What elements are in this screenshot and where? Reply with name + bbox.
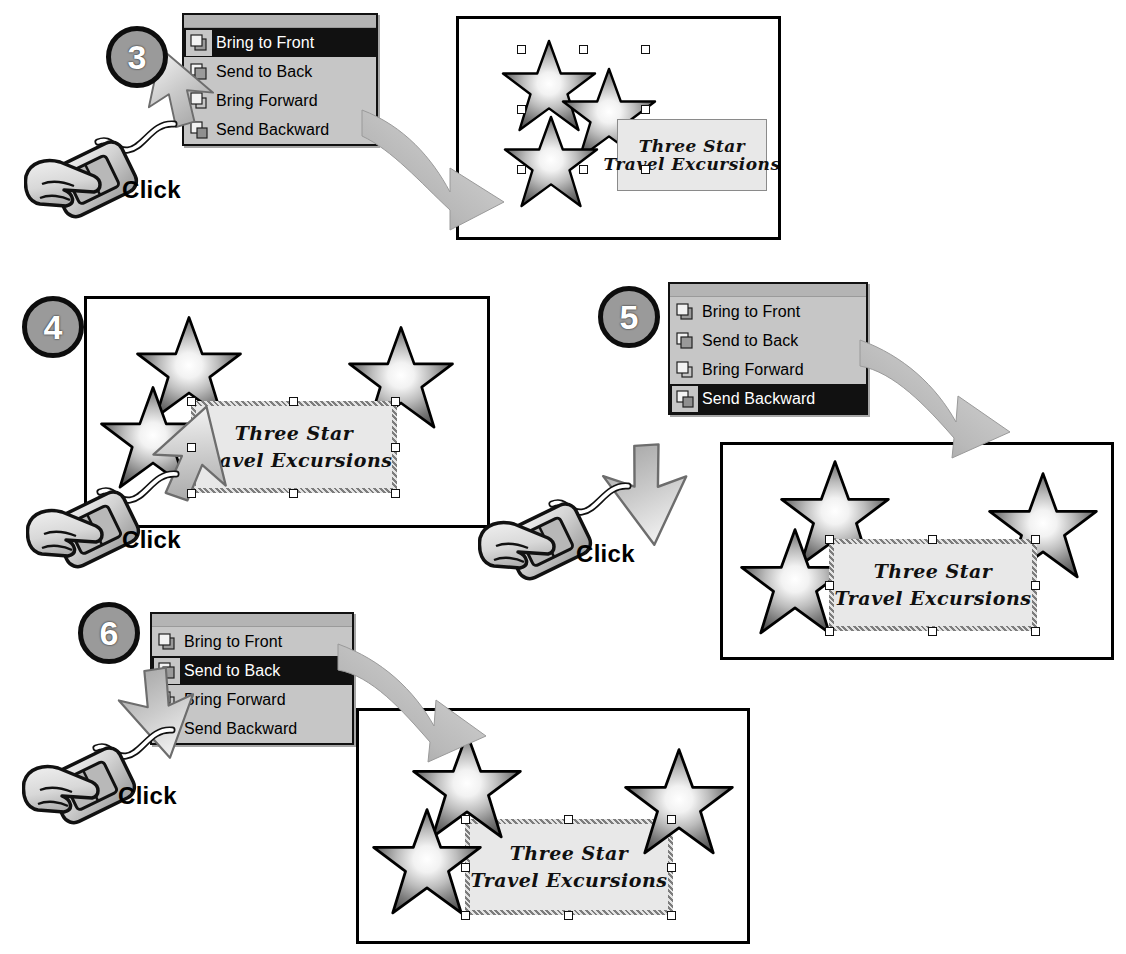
- selection-handle[interactable]: [461, 911, 470, 920]
- selection-handle[interactable]: [579, 45, 588, 54]
- menu-grip[interactable]: [184, 15, 376, 28]
- menu-item-send-to-back[interactable]: Send to Back: [670, 326, 866, 355]
- selection-handle[interactable]: [564, 911, 573, 920]
- menu-grip[interactable]: [670, 284, 866, 297]
- selection-handle[interactable]: [641, 45, 650, 54]
- click-label-step5: Click: [576, 540, 635, 568]
- menu-grip[interactable]: [152, 614, 352, 627]
- text-box-step5[interactable]: Three Star Travel Excursions: [829, 539, 1037, 631]
- selection-handle[interactable]: [1031, 581, 1040, 590]
- step-number-badge-3: 3: [106, 26, 168, 88]
- selection-handle[interactable]: [667, 911, 676, 920]
- selection-handle[interactable]: [187, 397, 196, 406]
- mouse-hand-graphic-step6: [22, 724, 212, 838]
- selection-handle[interactable]: [825, 535, 834, 544]
- selection-handle[interactable]: [825, 627, 834, 636]
- star-shape[interactable]: [501, 115, 601, 211]
- selection-handle[interactable]: [391, 489, 400, 498]
- star-shape[interactable]: [621, 747, 737, 859]
- mouse-hand-graphic-step3: [24, 118, 214, 232]
- flow-arrow-step6: [334, 636, 492, 770]
- step-number-badge-4: 4: [22, 296, 84, 358]
- mouse-hand-graphic-step5: [478, 480, 668, 594]
- menu-item-label: Bring Forward: [698, 361, 804, 379]
- selection-handle[interactable]: [641, 105, 650, 114]
- selection-handle[interactable]: [461, 815, 470, 824]
- menu-item-label: Bring to Front: [698, 303, 800, 321]
- selection-handle[interactable]: [517, 105, 526, 114]
- mouse-hand-graphic-step4: [26, 468, 216, 582]
- text-box-line-2: Travel Excursions: [835, 588, 1032, 609]
- bring-forward-icon: [672, 357, 698, 383]
- text-box-step3[interactable]: Three Star Travel Excursions: [617, 119, 767, 191]
- menu-item-label: Send to Back: [698, 332, 798, 350]
- selection-handle[interactable]: [1031, 535, 1040, 544]
- text-box-line-1: Three Star: [639, 137, 746, 155]
- selection-handle[interactable]: [1031, 627, 1040, 636]
- context-menu-step5[interactable]: Bring to Front Send to Back Bring Forwar…: [668, 282, 868, 415]
- selection-handle[interactable]: [391, 443, 400, 452]
- menu-item-bring-forward[interactable]: Bring Forward: [670, 355, 866, 384]
- send-backward-icon: [672, 386, 698, 412]
- text-box-line-1: Three Star: [235, 423, 354, 444]
- selection-handle[interactable]: [667, 863, 676, 872]
- selection-handle[interactable]: [289, 397, 298, 406]
- text-box-line-1: Three Star: [510, 843, 629, 864]
- text-box-line-1: Three Star: [874, 561, 993, 582]
- selection-handle[interactable]: [825, 581, 834, 590]
- click-label-step4: Click: [122, 526, 181, 554]
- flow-arrow-step3: [358, 96, 510, 236]
- bring-to-front-icon: [672, 299, 698, 325]
- selection-handle[interactable]: [928, 535, 937, 544]
- click-label-step3: Click: [122, 176, 181, 204]
- selection-handle[interactable]: [461, 863, 470, 872]
- selection-handle[interactable]: [517, 165, 526, 174]
- selection-handle[interactable]: [579, 165, 588, 174]
- selection-handle[interactable]: [391, 397, 400, 406]
- selection-handle[interactable]: [641, 165, 650, 174]
- text-box-line-2: Travel Excursions: [604, 155, 781, 173]
- menu-item-send-backward[interactable]: Send Backward: [670, 384, 866, 413]
- step-number-badge-5: 5: [598, 286, 660, 348]
- selection-handle[interactable]: [928, 627, 937, 636]
- menu-item-bring-to-front[interactable]: Bring to Front: [670, 297, 866, 326]
- selection-handle[interactable]: [187, 443, 196, 452]
- click-label-step6: Click: [118, 782, 177, 810]
- menu-item-label: Send Backward: [698, 390, 815, 408]
- selection-handle[interactable]: [517, 45, 526, 54]
- selection-handle[interactable]: [289, 489, 298, 498]
- text-box-line-2: Travel Excursions: [471, 870, 668, 891]
- flow-arrow-step5: [856, 330, 1016, 464]
- selection-handle[interactable]: [564, 815, 573, 824]
- selection-handle[interactable]: [667, 815, 676, 824]
- step-number-badge-6: 6: [78, 602, 140, 664]
- send-to-back-icon: [672, 328, 698, 354]
- slide-result-step5[interactable]: Three Star Travel Excursions: [720, 442, 1114, 660]
- menu-item-label: Bring to Front: [212, 34, 314, 52]
